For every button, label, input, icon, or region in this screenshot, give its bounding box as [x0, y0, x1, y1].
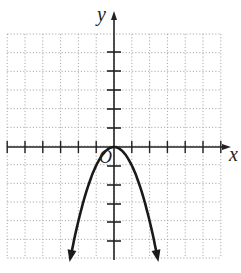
origin-label: O	[99, 148, 112, 166]
coordinate-plane	[0, 0, 241, 273]
x-axis-label: x	[229, 144, 238, 164]
y-axis-label: y	[97, 4, 106, 24]
